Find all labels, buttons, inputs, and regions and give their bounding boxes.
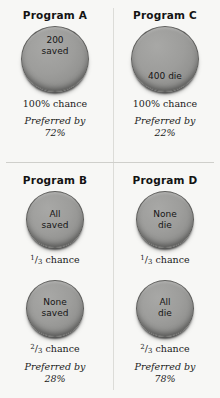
program-c-outcome-1: 400 die [110,21,220,92]
program-d-title: Program D [110,174,220,186]
coin-icon: None die [136,191,194,248]
coin-label-line1: None [153,209,176,219]
fraction-numerator: 1 [140,254,144,262]
coin-label: None die [149,209,180,231]
coin-label-line1: All [159,297,170,307]
program-b-preferred-value: 28% [0,373,110,384]
program-c-preferred-value: 22% [110,127,220,138]
quadrant-program-a: Program A 200 saved 100% chance Preferre… [0,0,110,138]
program-b-chance-2: 2/3 chance [0,343,110,355]
fraction-numerator: 2 [140,343,144,351]
coin-label: All saved [38,209,73,231]
coin-label-line1: 200 [46,35,63,45]
coin-icon: None saved [26,280,84,337]
coin-label: None saved [38,297,73,319]
program-d-chance-2: 2/3 chance [110,343,220,355]
program-b-outcome-1: All saved [0,186,110,248]
coin-icon: All saved [26,191,84,248]
chance-suffix: chance [42,343,79,354]
program-a-outcome-1: 200 saved [0,21,110,92]
coin-icon: 400 die [131,26,199,92]
program-d-preferred-label: Preferred by [110,361,220,372]
coin-icon: All die [136,280,194,337]
chance-suffix: chance [152,254,189,265]
coin-label-line1: 400 die [148,71,182,81]
program-b-preferred-label: Preferred by [0,361,110,372]
program-d-outcome-1: None die [110,186,220,248]
program-b-chance-1: 1/3 chance [0,254,110,266]
program-c-preferred-label: Preferred by [110,115,220,126]
coin-label-line1: None [43,297,66,307]
program-b-title: Program B [0,174,110,186]
chance-suffix: chance [42,254,79,265]
program-d-preferred-value: 78% [110,373,220,384]
coin-label: 400 die [144,71,186,82]
coin-label-line2: die [158,308,172,318]
program-d-outcome-2: All die [110,275,220,337]
quadrant-program-c: Program C 400 die 100% chance Preferred … [110,0,220,138]
horizontal-divider [6,162,214,163]
program-a-preferred-value: 72% [0,127,110,138]
quadrant-program-b: Program B All saved 1/3 chance None save… [0,165,110,384]
coin-label-line2: saved [42,220,69,230]
coin-label: 200 saved [38,35,73,57]
fraction-numerator: 2 [30,343,34,351]
coin-icon: 200 saved [21,26,89,92]
quadrant-program-d: Program D None die 1/3 chance All die 2/… [110,165,220,384]
fraction-numerator: 1 [30,254,34,262]
program-c-title: Program C [110,9,220,21]
program-b-outcome-2: None saved [0,275,110,337]
program-d-chance-1: 1/3 chance [110,254,220,266]
coin-label-line2: saved [42,308,69,318]
program-a-title: Program A [0,9,110,21]
chance-suffix: chance [152,343,189,354]
coin-label-line2: die [158,220,172,230]
framing-effect-diagram: Program A 200 saved 100% chance Preferre… [0,0,220,398]
program-a-preferred-label: Preferred by [0,115,110,126]
program-a-chance: 100% chance [0,98,110,109]
coin-label-line1: All [49,209,60,219]
program-c-chance: 100% chance [110,98,220,109]
coin-label: All die [154,297,176,319]
coin-label-line2: saved [42,46,69,56]
